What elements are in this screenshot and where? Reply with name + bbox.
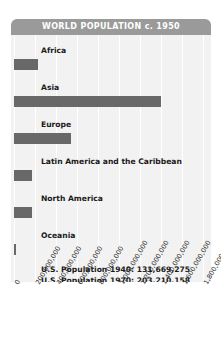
chart-title: WORLD POPULATION c. 1950: [11, 19, 211, 35]
category-label: Europe: [41, 120, 71, 129]
x-axis-tick-labels: 0200,000,000400,000,000600,000,000800,00…: [0, 282, 221, 360]
bar: [14, 170, 32, 181]
category-label: Latin America and the Caribbean: [41, 157, 182, 166]
category-label: Africa: [41, 46, 66, 55]
bar: [14, 133, 71, 144]
gridline: [35, 35, 36, 282]
chart-title-bar: WORLD POPULATION c. 1950: [11, 19, 211, 35]
world-population-bar-chart: WORLD POPULATION c. 1950 AfricaAsiaEurop…: [0, 0, 221, 360]
bar: [14, 96, 161, 107]
bar: [14, 244, 16, 255]
category-label: Oceania: [41, 231, 75, 240]
bar: [14, 59, 38, 70]
category-label: North America: [41, 194, 103, 203]
bar: [14, 207, 32, 218]
category-label: Asia: [41, 83, 59, 92]
